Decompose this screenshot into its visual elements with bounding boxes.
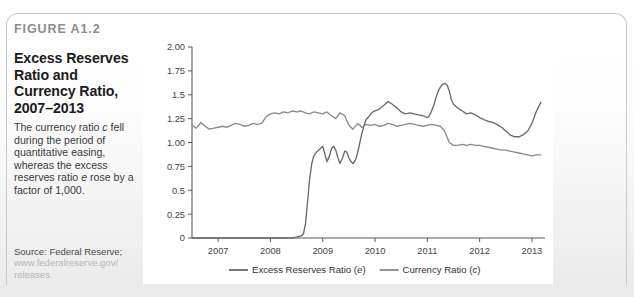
series-line-currency-ratio	[192, 111, 541, 156]
x-axis-tick-label: 2008	[260, 246, 281, 256]
x-axis: 2007200820092010201120122013	[192, 238, 545, 256]
figure-title: Excess Reserves Ratio and Currency Ratio…	[14, 50, 136, 116]
y-axis-tick-label: 1.5	[172, 90, 185, 100]
x-axis-tick-label: 2012	[469, 246, 490, 256]
x-axis-tick-label: 2013	[522, 246, 543, 256]
chart-legend: Excess Reserves Ratio (e)Currency Ratio …	[229, 264, 480, 275]
y-axis-tick-label: 0.5	[172, 186, 185, 196]
y-axis-tick-label: 1.00	[167, 138, 185, 148]
y-axis-tick-label: 1.25	[167, 114, 185, 124]
x-axis-tick-label: 2011	[417, 246, 437, 256]
source-line-url-2: releases.	[14, 269, 140, 280]
figure-number-label: FIGURE A1.2	[14, 22, 140, 36]
y-axis-tick-label: 0	[180, 233, 185, 243]
legend-label-currency-ratio: Currency Ratio (c)	[403, 264, 481, 275]
y-axis-tick-label: 0.25	[167, 210, 185, 220]
figure-source-note: Source: Federal Reserve; www.federalrese…	[14, 246, 140, 280]
y-axis-tick-label: 0.75	[167, 162, 185, 172]
line-chart: 2.001.751.51.251.000.750.50.250 20072008…	[143, 14, 553, 284]
source-line-publisher: Source: Federal Reserve;	[14, 246, 140, 257]
x-axis-tick-label: 2010	[365, 246, 386, 256]
y-axis: 2.001.751.51.251.000.750.50.250	[167, 42, 192, 243]
source-line-url-1: www.federalreserve.gov/	[14, 257, 140, 268]
x-axis-tick-label: 2007	[208, 246, 229, 256]
caption-segment-1: The currency ratio	[14, 121, 102, 133]
legend-label-excess-reserves: Excess Reserves Ratio (e)	[252, 264, 366, 275]
x-axis-tick-label: 2009	[312, 246, 333, 256]
y-axis-tick-label: 2.00	[167, 42, 185, 52]
chart-series-group	[192, 83, 541, 238]
chart-panel: 2.001.751.51.251.000.750.50.250 20072008…	[143, 14, 553, 284]
figure-container: FIGURE A1.2 Excess Reserves Ratio and Cu…	[0, 0, 634, 297]
figure-caption-text: The currency ratio c fell during the per…	[14, 121, 138, 197]
figure-caption-column: FIGURE A1.2 Excess Reserves Ratio and Cu…	[14, 22, 140, 284]
y-axis-tick-label: 1.75	[167, 66, 185, 76]
series-line-excess-reserves	[192, 83, 541, 238]
